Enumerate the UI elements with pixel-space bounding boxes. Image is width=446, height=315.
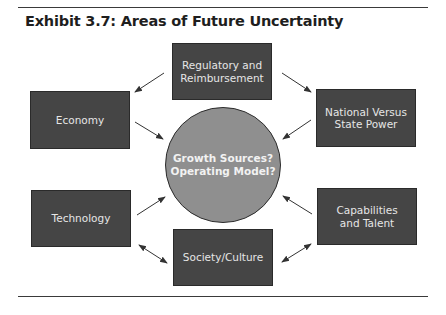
arrow-economy-to-center bbox=[135, 122, 163, 139]
node-capabilities-line1: Capabilities bbox=[336, 204, 397, 216]
arrow-regulatory-to-national bbox=[282, 73, 311, 92]
arrow-national-to-center bbox=[283, 120, 311, 139]
bottom-rule bbox=[18, 296, 428, 297]
arrow-capabilities-to-center bbox=[283, 196, 312, 214]
node-capabilities-and-talent: Capabilities and Talent bbox=[317, 188, 417, 245]
node-technology: Technology bbox=[31, 190, 131, 247]
arrow-capabilities-society bbox=[282, 244, 311, 262]
node-economy-label: Economy bbox=[56, 114, 104, 126]
node-capabilities-line2: and Talent bbox=[336, 217, 397, 229]
center-circle: Growth Sources? Operating Model? bbox=[165, 107, 281, 223]
node-regulatory-line1: Regulatory and bbox=[180, 59, 263, 71]
node-regulatory-line2: Reimbursement bbox=[180, 72, 263, 84]
node-economy: Economy bbox=[30, 91, 130, 149]
center-line1: Growth Sources? bbox=[173, 152, 273, 165]
node-technology-label: Technology bbox=[52, 212, 111, 224]
node-regulatory-reimbursement: Regulatory and Reimbursement bbox=[172, 43, 272, 100]
center-line2: Operating Model? bbox=[170, 165, 275, 178]
node-national-line1: National Versus bbox=[325, 106, 407, 118]
node-society-culture: Society/Culture bbox=[173, 229, 273, 286]
node-national-line2: State Power bbox=[325, 118, 407, 130]
node-national-versus-state-power: National Versus State Power bbox=[316, 89, 416, 147]
arrow-technology-society bbox=[139, 245, 167, 263]
arrow-technology-to-center bbox=[137, 197, 165, 215]
node-society-label: Society/Culture bbox=[183, 251, 263, 263]
arrow-regulatory-to-economy bbox=[135, 73, 164, 92]
